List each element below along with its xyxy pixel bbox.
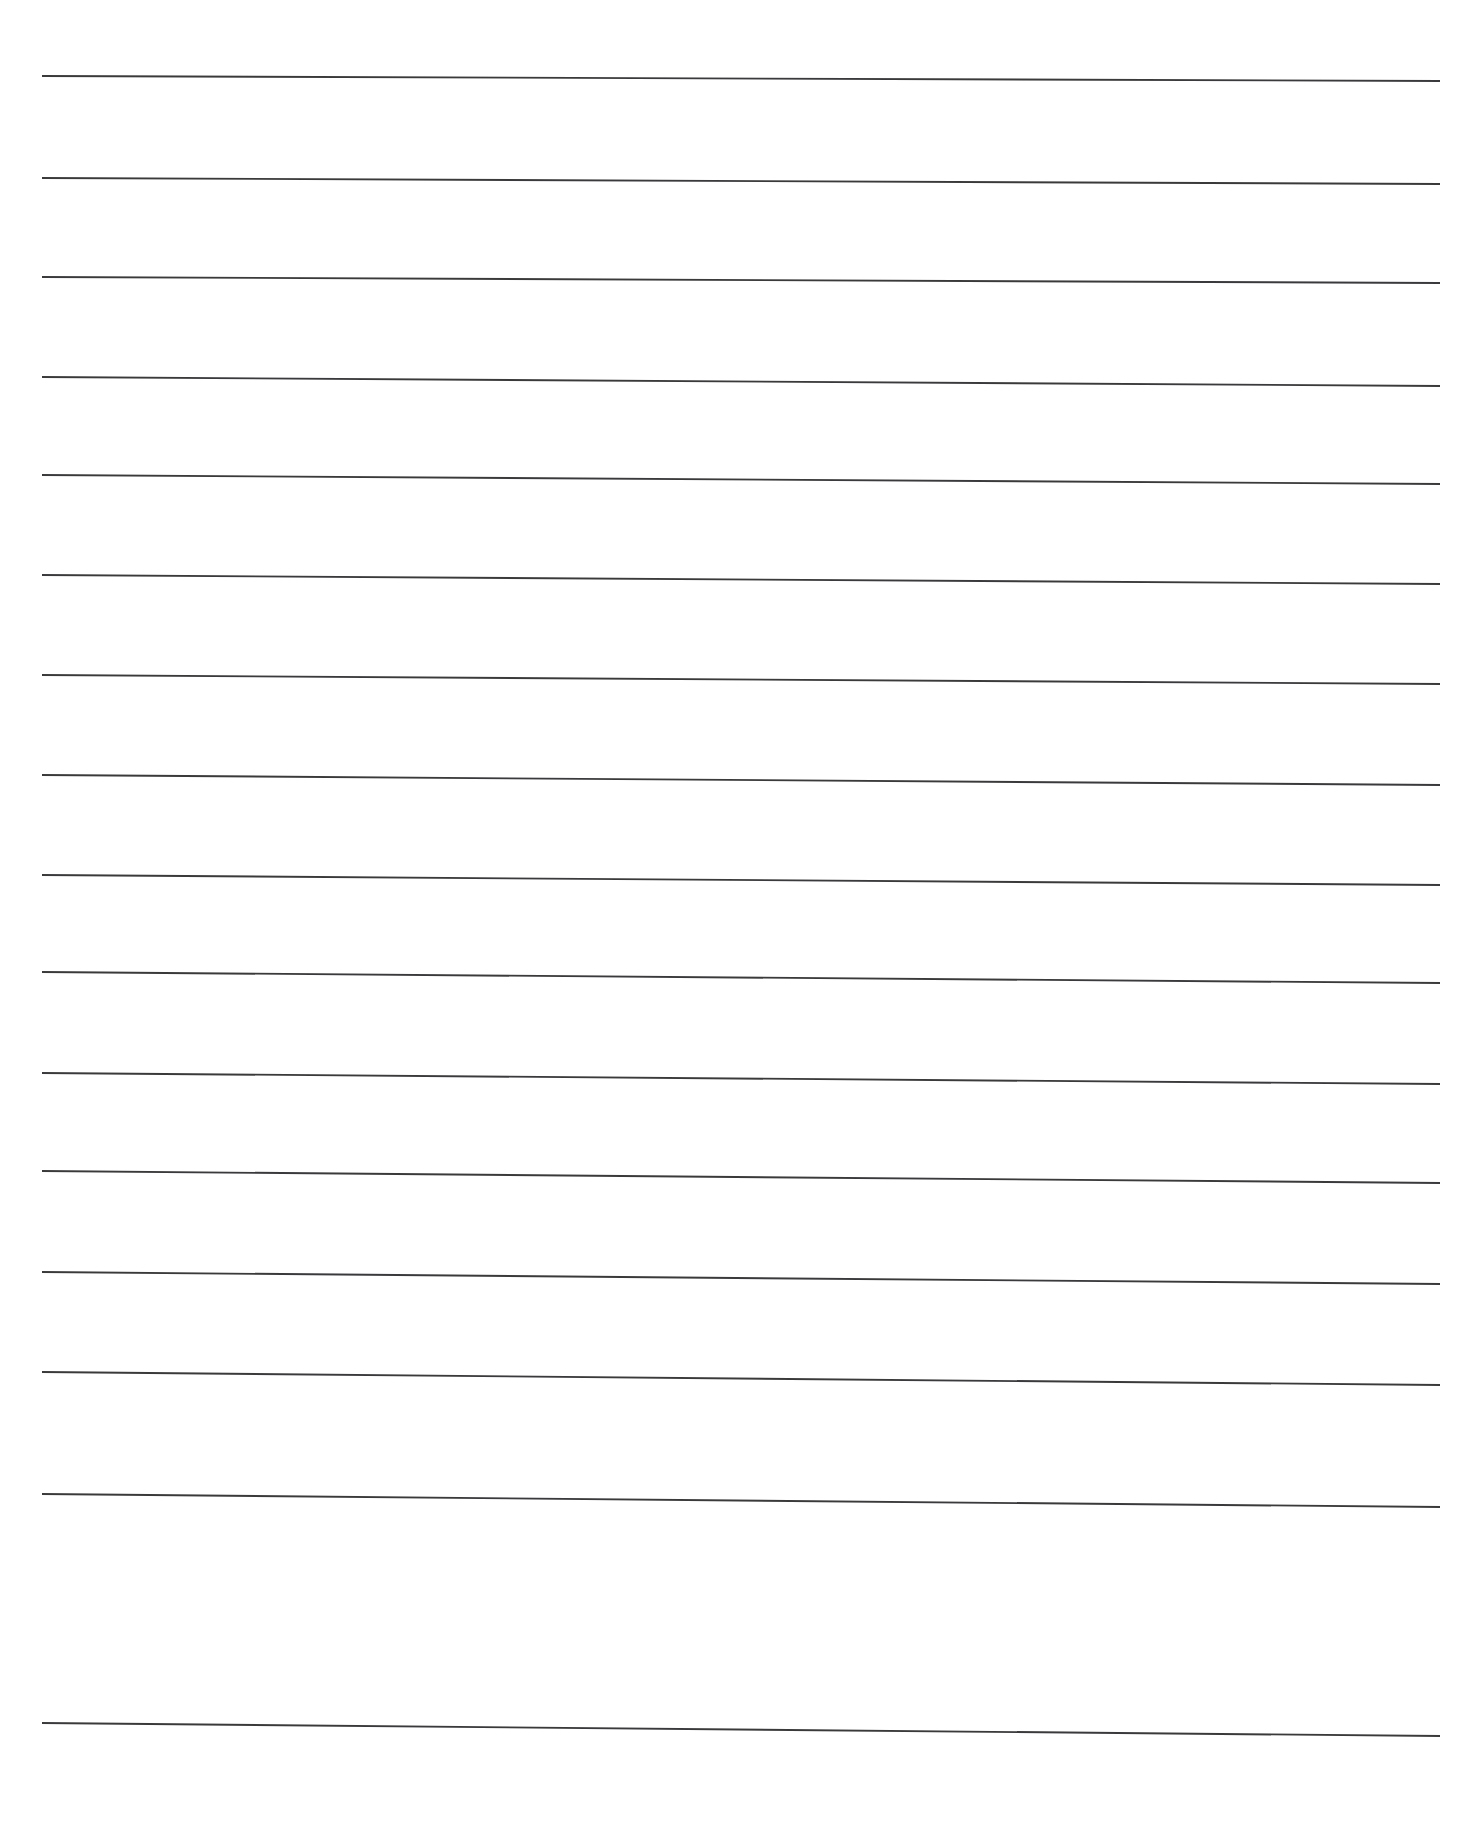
writing-area[interactable]	[42, 76, 1440, 1736]
lined-paper-page	[0, 0, 1477, 1845]
